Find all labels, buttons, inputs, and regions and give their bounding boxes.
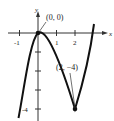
x-axis-label: x [108, 30, 113, 38]
x-axis-arrow-icon [102, 31, 108, 35]
y-tick-label-neg4: -4 [22, 106, 28, 114]
x-tick-label-2: 2 [73, 39, 77, 47]
point-label-origin: (0, 0) [46, 13, 64, 22]
leader-origin [39, 22, 46, 32]
x-tick-label-neg1: -1 [14, 39, 20, 47]
point-label-min: (2, −4) [56, 63, 78, 72]
function-graph: x y -1 1 2 -4 (0, 0) (2, −4) [0, 0, 114, 121]
x-tick-label-1: 1 [55, 39, 59, 47]
